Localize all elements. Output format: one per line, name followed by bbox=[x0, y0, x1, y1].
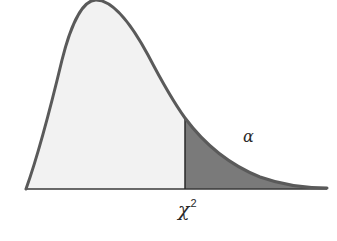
rejection-region bbox=[185, 118, 327, 189]
chi-square-exponent: 2 bbox=[191, 197, 197, 209]
acceptance-region bbox=[26, 0, 185, 189]
alpha-label: α bbox=[243, 127, 254, 146]
chi-square-diagram: α χ2 bbox=[0, 0, 337, 241]
chi-square-label: χ2 bbox=[176, 197, 197, 220]
